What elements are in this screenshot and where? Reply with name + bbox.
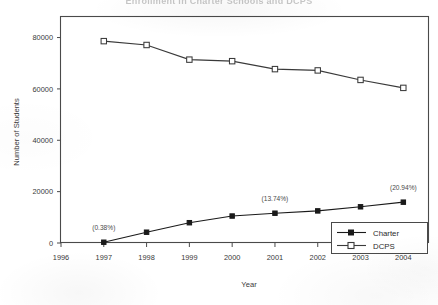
x-tick-label: 2003	[352, 253, 368, 262]
x-axis-title: Year	[241, 280, 257, 289]
data-point-dcps	[272, 66, 277, 71]
x-tick-label: 1996	[53, 253, 69, 262]
x-tick-label: 2000	[224, 253, 240, 262]
legend-marker-dcps	[348, 243, 354, 249]
data-point-charter	[144, 230, 148, 234]
x-tick-label: 1997	[96, 253, 112, 262]
data-point-charter	[401, 200, 405, 204]
data-point-charter	[316, 209, 320, 213]
y-tick-label: 60000	[32, 85, 53, 94]
legend-label-charter: Charter	[373, 229, 399, 238]
y-tick-label: 20000	[32, 187, 53, 196]
data-annotation: (13.74%)	[262, 195, 289, 203]
data-point-dcps	[144, 42, 149, 47]
data-point-charter	[273, 211, 277, 215]
data-annotation: (0.38%)	[92, 224, 115, 232]
enrollment-line-chart: Enrollment in Charter Schools and DCPS 0…	[0, 0, 438, 305]
x-tick-label: 2002	[310, 253, 326, 262]
y-axis-title: Number of Students	[12, 98, 21, 166]
plot-area-border	[61, 17, 429, 243]
y-tick-label: 80000	[32, 33, 53, 42]
y-tick-label: 40000	[32, 136, 53, 145]
y-tick-label: 0	[49, 239, 53, 248]
legend-label-dcps: DCPS	[373, 242, 395, 251]
data-point-dcps	[229, 58, 234, 63]
y-axis-ticks: 020000400006000080000	[32, 33, 61, 247]
data-point-charter	[187, 221, 191, 225]
data-point-dcps	[358, 77, 363, 82]
x-tick-label: 2001	[267, 253, 283, 262]
x-tick-label: 1999	[181, 253, 197, 262]
x-tick-label: 2004	[395, 253, 411, 262]
legend-marker-charter	[349, 230, 354, 235]
data-point-charter	[358, 205, 362, 209]
data-point-dcps	[187, 57, 192, 62]
data-point-dcps	[101, 38, 106, 43]
data-point-dcps	[401, 85, 406, 90]
data-point-charter	[230, 214, 234, 218]
chart-canvas: 020000400006000080000 199619971998199920…	[0, 0, 438, 305]
data-annotation: (20.94%)	[390, 184, 417, 192]
chart-legend: Charter DCPS	[332, 223, 428, 254]
x-tick-label: 1998	[138, 253, 154, 262]
data-point-dcps	[315, 68, 320, 73]
data-point-charter	[102, 240, 106, 244]
